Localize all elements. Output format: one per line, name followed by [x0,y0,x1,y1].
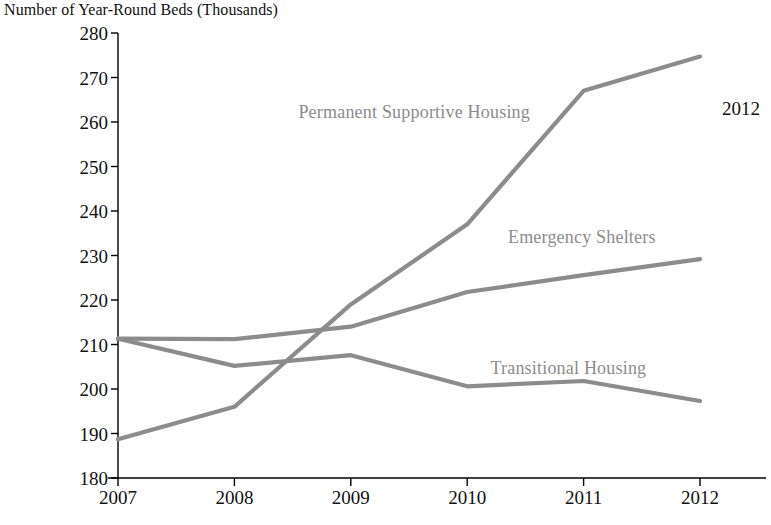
chart-annotation: 2012 [722,98,760,120]
series-label-permanent-supportive-housing: Permanent Supportive Housing [298,102,530,123]
series-label-transitional-housing: Transitional Housing [490,358,646,379]
series-label-emergency-shelters: Emergency Shelters [508,227,656,248]
plot-area [0,0,771,525]
line-chart: Number of Year-Round Beds (Thousands) 28… [0,0,771,525]
axes [108,33,766,486]
series-line-emergency-shelters [118,259,700,339]
